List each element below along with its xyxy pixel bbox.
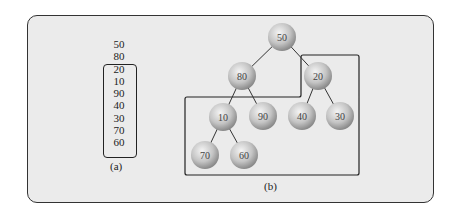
svg-text:50: 50 xyxy=(277,32,287,43)
tree-node-70: 70 xyxy=(191,141,219,169)
tree-node-40: 40 xyxy=(288,102,316,130)
svg-text:30: 30 xyxy=(335,111,345,122)
tree-node-50: 50 xyxy=(268,23,296,51)
tree-node-90: 90 xyxy=(249,102,277,130)
tree-node-80: 80 xyxy=(228,62,256,90)
svg-text:20: 20 xyxy=(313,71,323,82)
tree-node-60: 60 xyxy=(230,141,258,169)
svg-text:40: 40 xyxy=(297,111,307,122)
svg-text:60: 60 xyxy=(239,150,249,161)
svg-text:90: 90 xyxy=(258,111,268,122)
svg-text:70: 70 xyxy=(200,150,210,161)
tree-node-10: 10 xyxy=(209,103,237,131)
tree-diagram: 508020109040307060 xyxy=(0,0,457,212)
tree-node-30: 30 xyxy=(326,102,354,130)
tree-node-20: 20 xyxy=(304,62,332,90)
svg-text:10: 10 xyxy=(218,112,228,123)
svg-text:80: 80 xyxy=(237,71,247,82)
